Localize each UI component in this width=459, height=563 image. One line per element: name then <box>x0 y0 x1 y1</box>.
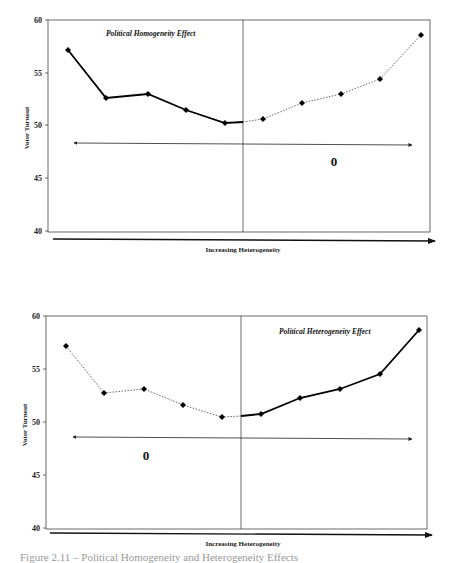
top-series-heterogeneity-dotted <box>243 35 421 122</box>
bottom-tick-50: 50 <box>32 418 40 427</box>
bottom-tick-40: 40 <box>32 524 40 533</box>
bottom-chart-title: Political Heterogeneity Effect <box>279 327 371 336</box>
bottom-chart: 60 55 50 45 40 Voter Turnout Political H… <box>21 312 432 548</box>
bottom-series-homogeneity-dotted <box>66 346 241 417</box>
bottom-y-label: Voter Turnout <box>21 403 29 446</box>
bottom-x-label: Increasing Heterogeneity <box>206 540 281 548</box>
top-chart-title: Political Homogeneity Effect <box>106 29 196 38</box>
bottom-zero-label: 0 <box>143 448 150 463</box>
top-tick-50: 50 <box>34 121 42 130</box>
bottom-tick-55: 55 <box>32 365 40 374</box>
top-x-label: Increasing Heterogeneity <box>206 246 281 254</box>
bottom-y-axis: 60 55 50 45 40 <box>32 312 46 533</box>
bottom-tick-60: 60 <box>32 312 40 321</box>
top-chart: 60 55 50 45 40 Voter Turnout Political H… <box>23 16 435 254</box>
top-tick-40: 40 <box>34 227 42 236</box>
top-y-axis: 60 55 50 45 40 <box>34 16 48 236</box>
bottom-reference-arrow <box>73 437 412 439</box>
bottom-x-axis-arrow <box>50 533 432 535</box>
figure-caption: Figure 2.11 – Political Homogeneity and … <box>20 551 298 563</box>
top-tick-55: 55 <box>34 69 42 78</box>
top-data-markers <box>65 32 424 126</box>
top-x-axis-arrow <box>53 239 435 241</box>
top-y-label: Voter Turnout <box>23 106 31 149</box>
top-zero-label: 0 <box>331 154 338 169</box>
bottom-data-markers <box>63 327 422 420</box>
bottom-plot-frame <box>46 316 427 529</box>
bottom-tick-45: 45 <box>32 471 40 480</box>
top-tick-45: 45 <box>34 174 42 183</box>
top-tick-60: 60 <box>34 16 42 25</box>
bottom-series-heterogeneity-solid <box>241 330 419 416</box>
top-plot-frame <box>48 20 430 232</box>
top-series-homogeneity-solid <box>68 50 243 123</box>
